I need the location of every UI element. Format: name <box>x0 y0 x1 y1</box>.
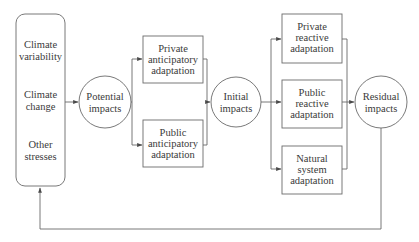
private-anticipatory-line3: adaptation <box>151 65 195 76</box>
potential-impacts-node: Potential impacts <box>79 76 131 128</box>
initial-impacts-line1: Initial <box>223 91 248 102</box>
residual-impacts-line2: impacts <box>365 103 398 114</box>
public-reactive-line1: Public <box>299 87 326 98</box>
natural-system-line2: system <box>297 164 326 175</box>
potential-splitter <box>131 59 142 145</box>
natural-system-line3: adaptation <box>290 175 334 186</box>
public-anticipatory-adaptation-node: Public anticipatory adaptation <box>143 120 203 167</box>
driver-other-stresses-line2: stresses <box>24 151 56 162</box>
driver-climate-variability-line2: variability <box>19 51 63 62</box>
potential-impacts-line1: Potential <box>86 91 123 102</box>
public-anticipatory-line1: Public <box>160 127 187 138</box>
driver-other-stresses-line1: Other <box>29 139 53 150</box>
reactive-merger <box>342 39 354 169</box>
initial-splitter <box>261 39 281 169</box>
natural-system-line1: Natural <box>296 153 328 164</box>
adaptation-flow-diagram: Climate variability Climate change Other… <box>0 0 419 242</box>
public-anticipatory-line3: adaptation <box>151 149 195 160</box>
potential-impacts-line2: impacts <box>89 103 122 114</box>
public-reactive-adaptation-node: Public reactive adaptation <box>282 80 342 128</box>
public-anticipatory-line2: anticipatory <box>148 138 199 149</box>
initial-impacts-node: Initial impacts <box>211 77 261 127</box>
private-reactive-line1: Private <box>297 21 327 32</box>
anticipatory-merger <box>203 59 210 145</box>
driver-climate-variability-line1: Climate <box>24 39 58 50</box>
driver-climate-change-line1: Climate <box>24 89 58 100</box>
drivers-box: Climate variability Climate change Other… <box>16 14 65 186</box>
public-reactive-line3: adaptation <box>290 109 334 120</box>
public-reactive-line2: reactive <box>295 98 329 109</box>
driver-climate-change-line2: change <box>26 101 56 112</box>
private-anticipatory-line1: Private <box>158 43 188 54</box>
private-reactive-line3: adaptation <box>290 43 334 54</box>
private-anticipatory-line2: anticipatory <box>148 54 199 65</box>
private-reactive-adaptation-node: Private reactive adaptation <box>282 14 342 63</box>
natural-system-adaptation-node: Natural system adaptation <box>282 146 342 194</box>
initial-impacts-line2: impacts <box>220 103 253 114</box>
residual-impacts-node: Residual impacts <box>355 76 407 128</box>
residual-impacts-line1: Residual <box>363 91 400 102</box>
private-reactive-line2: reactive <box>295 32 329 43</box>
private-anticipatory-adaptation-node: Private anticipatory adaptation <box>143 36 203 83</box>
